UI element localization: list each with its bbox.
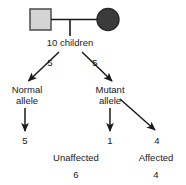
branch-arrow-left (29, 52, 60, 81)
outcome-count-normal: 5 (22, 136, 27, 146)
mother-circle-symbol (97, 9, 119, 31)
mutant-affected-arrow (120, 99, 155, 130)
branch-count-left: 5 (47, 58, 52, 68)
status-label-affected: Affected (139, 153, 174, 163)
outcome-count-mutant-unaffected: 1 (107, 136, 112, 146)
pedigree-diagram: 10 children 5 5 Normal allele Mutant all… (0, 0, 186, 185)
outcome-count-mutant-affected: 4 (154, 136, 159, 146)
offspring-count-label: 10 children (47, 38, 93, 48)
total-unaffected: 6 (73, 170, 78, 180)
status-label-unaffected: Unaffected (53, 153, 99, 163)
branch-count-right: 5 (92, 58, 97, 68)
total-affected: 4 (153, 170, 158, 180)
father-square-symbol (30, 9, 51, 30)
mutant-allele-label-line2: allele (99, 96, 121, 106)
mutant-allele-label-line1: Mutant (95, 85, 124, 95)
normal-allele-label-line1: Normal (12, 85, 43, 95)
normal-allele-label-line2: allele (16, 96, 38, 106)
